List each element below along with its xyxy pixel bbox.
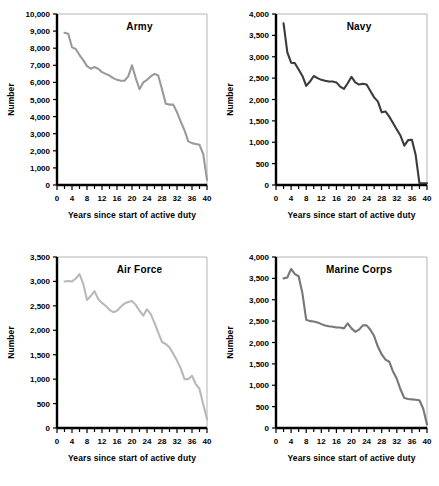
y-tick-label: 1,500: [249, 360, 270, 369]
x-tick-label: 12: [317, 194, 326, 203]
panel-title: Army: [126, 21, 153, 32]
marines-chart-svg: 05001,0001,5002,0002,5003,0003,5004,0000…: [219, 243, 439, 486]
panel-title: Air Force: [117, 264, 163, 275]
y-tick-label: 6,000: [30, 78, 51, 87]
y-tick-label: 3,000: [249, 296, 270, 305]
y-tick-label: 2,500: [249, 74, 270, 83]
x-axis-title: Years since start of active duty: [68, 210, 196, 220]
y-tick-label: 5,000: [30, 96, 51, 105]
y-tick-label: 0: [265, 181, 270, 190]
y-tick-label: 3,000: [249, 53, 270, 62]
y-tick-label: 2,000: [30, 326, 51, 335]
y-tick-label: 0: [46, 181, 51, 190]
x-tick-label: 36: [407, 194, 416, 203]
x-tick-label: 0: [55, 194, 60, 203]
y-tick-label: 2,000: [30, 147, 51, 156]
data-series-line: [65, 274, 208, 419]
panel-title: Marine Corps: [326, 264, 393, 275]
x-tick-label: 32: [173, 194, 182, 203]
x-tick-label: 28: [158, 194, 167, 203]
x-tick-label: 40: [203, 437, 212, 446]
y-tick-label: 7,000: [30, 61, 51, 70]
x-tick-label: 4: [70, 437, 75, 446]
x-tick-label: 36: [188, 194, 197, 203]
x-tick-label: 12: [98, 194, 107, 203]
y-axis-title: Number: [6, 326, 16, 359]
x-tick-label: 20: [128, 437, 137, 446]
x-tick-label: 24: [143, 194, 152, 203]
x-tick-label: 24: [362, 437, 371, 446]
x-axis-title: Years since start of active duty: [288, 453, 416, 463]
navy-chart-svg: 05001,0001,5002,0002,5003,0003,5004,0000…: [219, 0, 439, 243]
x-tick-label: 32: [173, 437, 182, 446]
y-tick-label: 500: [256, 160, 270, 169]
y-tick-label: 3,000: [30, 277, 51, 286]
y-tick-label: 2,500: [249, 317, 270, 326]
x-tick-label: 8: [85, 437, 90, 446]
x-tick-label: 8: [304, 194, 309, 203]
y-axis-title: Number: [225, 83, 235, 116]
x-tick-label: 16: [113, 194, 122, 203]
x-tick-label: 20: [128, 194, 137, 203]
x-tick-label: 40: [203, 194, 212, 203]
x-tick-label: 16: [332, 194, 341, 203]
y-tick-label: 3,500: [30, 253, 51, 262]
y-tick-label: 0: [265, 424, 270, 433]
x-tick-label: 36: [188, 437, 197, 446]
x-tick-label: 8: [304, 437, 309, 446]
y-tick-label: 2,000: [249, 96, 270, 105]
chart-figure: 01,0002,0003,0004,0005,0006,0007,0008,00…: [0, 0, 439, 486]
y-tick-label: 1,000: [249, 138, 270, 147]
y-tick-label: 8,000: [30, 44, 51, 53]
y-tick-label: 4,000: [249, 10, 270, 19]
y-tick-label: 1,500: [30, 351, 51, 360]
airforce-chart-svg: 05001,0001,5002,0002,5003,0003,500048121…: [0, 243, 219, 486]
x-tick-label: 0: [274, 437, 279, 446]
y-tick-label: 4,000: [249, 253, 270, 262]
x-tick-label: 32: [392, 194, 401, 203]
x-axis-title: Years since start of active duty: [68, 453, 196, 463]
x-tick-label: 24: [143, 437, 152, 446]
y-tick-label: 500: [256, 403, 270, 412]
y-tick-label: 0: [46, 424, 51, 433]
y-tick-label: 10,000: [26, 10, 51, 19]
x-tick-label: 20: [347, 437, 356, 446]
panel-airforce: 05001,0001,5002,0002,5003,0003,500048121…: [0, 243, 219, 486]
x-tick-label: 4: [70, 194, 75, 203]
x-tick-label: 32: [392, 437, 401, 446]
data-series-line: [284, 23, 427, 183]
y-tick-label: 4,000: [30, 113, 51, 122]
x-tick-label: 8: [85, 194, 90, 203]
y-tick-label: 3,500: [249, 31, 270, 40]
y-tick-label: 1,000: [30, 375, 51, 384]
y-tick-label: 3,500: [249, 274, 270, 283]
data-series-line: [284, 269, 427, 425]
x-tick-label: 28: [158, 437, 167, 446]
y-tick-label: 1,000: [249, 381, 270, 390]
y-tick-label: 2,500: [30, 302, 51, 311]
x-tick-label: 0: [55, 437, 60, 446]
y-tick-label: 1,000: [30, 164, 51, 173]
x-tick-label: 36: [407, 437, 416, 446]
x-tick-label: 40: [423, 437, 432, 446]
panel-army: 01,0002,0003,0004,0005,0006,0007,0008,00…: [0, 0, 219, 243]
x-tick-label: 28: [377, 194, 386, 203]
panel-title: Navy: [347, 21, 372, 32]
x-tick-label: 4: [289, 437, 294, 446]
panel-navy: 05001,0001,5002,0002,5003,0003,5004,0000…: [219, 0, 439, 243]
y-axis-title: Number: [225, 326, 235, 359]
y-tick-label: 500: [37, 400, 51, 409]
x-tick-label: 16: [332, 437, 341, 446]
x-tick-label: 4: [289, 194, 294, 203]
panel-marines: 05001,0001,5002,0002,5003,0003,5004,0000…: [219, 243, 439, 486]
x-tick-label: 24: [362, 194, 371, 203]
x-axis-title: Years since start of active duty: [288, 210, 416, 220]
army-chart-svg: 01,0002,0003,0004,0005,0006,0007,0008,00…: [0, 0, 219, 243]
x-tick-label: 28: [377, 437, 386, 446]
data-series-line: [65, 33, 208, 180]
y-axis-title: Number: [6, 83, 16, 116]
y-tick-label: 3,000: [30, 130, 51, 139]
y-tick-label: 9,000: [30, 27, 51, 36]
x-tick-label: 40: [423, 194, 432, 203]
x-tick-label: 12: [317, 437, 326, 446]
